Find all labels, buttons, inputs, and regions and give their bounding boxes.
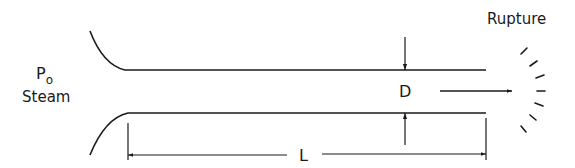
- rupture-label: Rupture: [487, 10, 546, 28]
- diameter-label: D: [399, 82, 411, 101]
- pipe-rupture-diagram: Po Steam D Rupture L: [0, 0, 575, 168]
- pressure-label: Po: [36, 64, 53, 87]
- pipe-top-wall: [90, 31, 486, 70]
- length-label: L: [299, 146, 308, 165]
- steam-label: Steam: [22, 88, 70, 106]
- rupture-burst-icon: [521, 48, 545, 132]
- pipe-bottom-wall: [90, 113, 486, 155]
